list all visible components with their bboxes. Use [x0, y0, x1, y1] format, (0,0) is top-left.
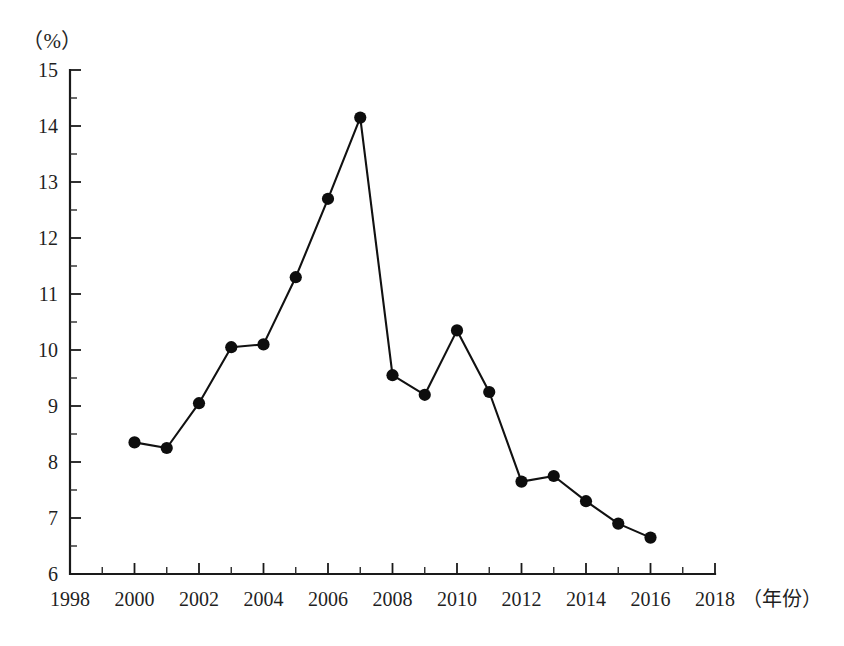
data-point	[257, 338, 269, 350]
axis-ticks	[70, 70, 715, 574]
data-point	[419, 389, 431, 401]
axis-spines	[70, 70, 715, 574]
y-tick-label: 7	[18, 508, 58, 528]
data-point	[225, 341, 237, 353]
data-series-line	[135, 118, 651, 538]
data-point	[612, 518, 624, 530]
y-tick-label: 14	[18, 116, 58, 136]
data-point	[290, 271, 302, 283]
data-point	[644, 532, 656, 544]
y-tick-label: 10	[18, 340, 58, 360]
data-point	[386, 369, 398, 381]
y-tick-label: 9	[18, 396, 58, 416]
data-point	[548, 470, 560, 482]
data-point	[128, 436, 140, 448]
chart-plot-area	[0, 0, 844, 646]
y-tick-label: 8	[18, 452, 58, 472]
data-point	[161, 442, 173, 454]
y-axis-unit-label: （%）	[22, 24, 83, 54]
line-chart: （%） 6789101112131415 1998200020022004200…	[0, 0, 844, 646]
data-point	[451, 324, 463, 336]
data-point	[483, 386, 495, 398]
data-point	[354, 112, 366, 124]
y-tick-label: 13	[18, 172, 58, 192]
data-point-markers	[128, 112, 656, 544]
x-axis-title: （年份）	[742, 589, 822, 609]
y-tick-label: 11	[18, 284, 58, 304]
y-tick-label: 12	[18, 228, 58, 248]
axes-group	[70, 70, 715, 574]
y-tick-label: 15	[18, 60, 58, 80]
data-point	[515, 476, 527, 488]
data-point	[580, 495, 592, 507]
data-point	[322, 193, 334, 205]
y-tick-label: 6	[18, 564, 58, 584]
data-point	[193, 397, 205, 409]
